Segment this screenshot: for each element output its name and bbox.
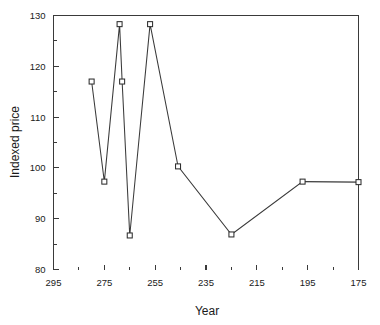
data-point-marker <box>356 180 361 185</box>
x-tick-label: 275 <box>96 277 112 288</box>
x-tick-label: 255 <box>147 277 163 288</box>
y-axis-tick-labels: 8090100110120130 <box>30 10 46 275</box>
x-axis-major-ticks <box>54 265 359 270</box>
series-markers <box>89 22 361 238</box>
y-tick-label: 130 <box>30 10 46 21</box>
y-tick-label: 120 <box>30 61 46 72</box>
y-tick-label: 100 <box>30 162 46 173</box>
data-point-marker <box>148 22 153 27</box>
data-point-marker <box>176 164 181 169</box>
y-tick-label: 110 <box>30 112 45 123</box>
x-axis-tick-labels: 295275255235215195175 <box>46 277 367 288</box>
data-point-marker <box>300 179 305 184</box>
series-line-indexed-price <box>92 24 359 235</box>
data-point-marker <box>229 232 234 237</box>
chart-container: 8090100110120130 295275255235215195175 Y… <box>0 0 380 325</box>
x-tick-label: 235 <box>198 277 214 288</box>
y-axis-title: Indexed price <box>8 106 22 178</box>
data-point-marker <box>102 179 107 184</box>
data-point-marker <box>117 22 122 27</box>
x-axis-title: Year <box>195 304 219 318</box>
data-point-marker <box>120 79 125 84</box>
y-tick-label: 90 <box>35 213 46 224</box>
x-tick-label: 175 <box>351 277 367 288</box>
data-point-marker <box>89 79 94 84</box>
x-tick-label: 195 <box>300 277 316 288</box>
x-tick-label: 215 <box>249 277 265 288</box>
line-chart: 8090100110120130 295275255235215195175 Y… <box>0 0 380 325</box>
y-tick-label: 80 <box>35 264 46 275</box>
data-point-marker <box>127 233 132 238</box>
x-tick-label: 295 <box>46 277 62 288</box>
